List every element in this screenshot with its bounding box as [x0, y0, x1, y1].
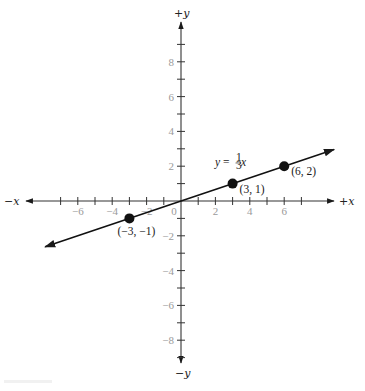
x-tick-labels: −6−4−20246	[72, 205, 288, 217]
y-tick-label: −2	[162, 230, 174, 242]
point-label: (3, 1)	[240, 183, 265, 196]
equation-label: y = 1 3 x	[214, 151, 247, 171]
svg-text:x: x	[240, 156, 247, 168]
y-positive-label: +y	[174, 7, 190, 20]
x-tick-label: 6	[281, 205, 287, 217]
point-labels: (−3, −1)(3, 1)(6, 2)	[117, 165, 316, 238]
y-tick-label: 2	[169, 160, 175, 172]
svg-text:y =: y =	[214, 156, 229, 169]
y-tick-label: −4	[162, 265, 174, 277]
y-tick-label: 8	[169, 56, 175, 68]
y-tick-label: −8	[162, 334, 174, 346]
x-tick-label: −4	[106, 205, 118, 217]
coordinate-plane: −6−4−20246 8642−2−4−6−8 −x +x +y −y (−3,…	[0, 0, 365, 391]
data-point	[279, 161, 289, 171]
y-tick-label: 4	[169, 125, 175, 137]
point-label: (6, 2)	[291, 165, 316, 178]
y-tick-label: −6	[162, 299, 174, 311]
x-negative-label: −x	[4, 195, 20, 208]
series-line-y-equals-third-x	[45, 149, 334, 246]
figure-caption-fragment	[4, 380, 52, 383]
x-tick-label: 0	[171, 205, 177, 217]
point-label: (−3, −1)	[117, 225, 155, 238]
x-tick-label: 4	[247, 205, 253, 217]
y-tick-label: 6	[169, 91, 175, 103]
y-negative-label: −y	[175, 367, 191, 380]
x-tick-label: 2	[213, 205, 219, 217]
data-point	[124, 213, 134, 223]
data-point	[228, 179, 238, 189]
x-tick-label: −6	[72, 205, 84, 217]
x-positive-label: +x	[339, 195, 355, 208]
